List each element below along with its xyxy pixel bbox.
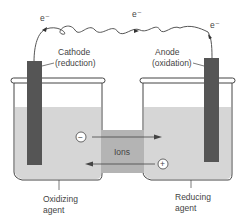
bridge-label: Ions [114,147,130,157]
positive-ion-sign: + [160,159,165,169]
leader-line [42,63,54,66]
negative-ion-sign: − [78,132,83,142]
cathode-sub-label: (reduction) [55,58,96,68]
oxidizing-agent-sub-label: agent [43,205,65,215]
electron-label: e⁻ [40,13,50,23]
cathode-electrode [27,61,42,165]
electrochemical-cell-diagram: e⁻ e⁻ e⁻ Ions Cathode (reduction) Anode … [0,0,251,221]
left-rim [11,78,105,83]
oxidizing-agent-label: Oxidizing [43,194,78,204]
electron-label: e⁻ [132,9,142,19]
arrow-icon [208,34,212,39]
right-rim [140,78,235,83]
reducing-agent-sub-label: agent [175,203,197,213]
leader-line [193,63,204,66]
anode-label: Anode [155,47,180,57]
cathode-label: Cathode [58,47,90,57]
anode-electrode [204,58,219,162]
reducing-agent-label: Reducing [175,192,211,202]
electron-label: e⁻ [210,20,220,30]
anode-sub-label: (oxidation) [152,58,192,68]
